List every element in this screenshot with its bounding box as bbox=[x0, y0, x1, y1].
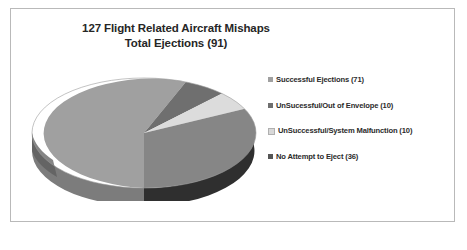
legend-swatch-icon bbox=[268, 154, 273, 159]
legend-label: UnSuccessful/System Malfunction (10) bbox=[278, 126, 412, 135]
chart-title-line-2: Total Ejections (91) bbox=[11, 36, 341, 51]
chart-frame: 127 Flight Related Aircraft Mishaps Tota… bbox=[10, 8, 455, 222]
legend-swatch-icon bbox=[268, 77, 273, 82]
legend-label: No Attempt to Eject (36) bbox=[276, 152, 358, 161]
chart-legend: Successful Ejections (71) UnSucessful/Ou… bbox=[268, 75, 453, 177]
legend-item-successful-ejections[interactable]: Successful Ejections (71) bbox=[268, 75, 453, 84]
legend-swatch-icon bbox=[268, 103, 273, 108]
legend-label: Successful Ejections (71) bbox=[276, 75, 364, 84]
chart-title: 127 Flight Related Aircraft Mishaps Tota… bbox=[11, 21, 341, 50]
legend-label: UnSucessful/Out of Envelope (10) bbox=[276, 101, 393, 110]
pie-svg bbox=[23, 71, 263, 201]
pie-graphic bbox=[23, 71, 263, 201]
legend-item-no-attempt-to-eject[interactable]: No Attempt to Eject (36) bbox=[268, 152, 453, 161]
legend-item-unsuccessful-system-malfunction[interactable]: UnSuccessful/System Malfunction (10) bbox=[268, 126, 453, 135]
chart-title-line-1: 127 Flight Related Aircraft Mishaps bbox=[11, 21, 341, 36]
pie-chart-figure: 127 Flight Related Aircraft Mishaps Tota… bbox=[11, 9, 456, 223]
legend-swatch-icon bbox=[268, 128, 275, 135]
legend-item-unsucessful-out-of-envelope[interactable]: UnSucessful/Out of Envelope (10) bbox=[268, 101, 453, 110]
